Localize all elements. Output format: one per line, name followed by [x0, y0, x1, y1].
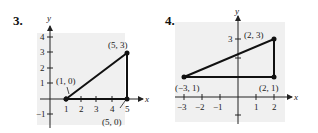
point-label: (1, 0) [56, 76, 76, 86]
svg-text:2: 2 [40, 63, 45, 73]
graph-3-y-label: y [46, 13, 51, 23]
graph-3: x y 1 2 3 4 5 4 3 2 1 −1 (1, 0) (5, 3) [36, 13, 149, 128]
svg-text:4: 4 [40, 32, 45, 42]
svg-text:4: 4 [110, 104, 115, 114]
svg-text:1: 1 [40, 78, 45, 88]
svg-text:1: 1 [64, 104, 69, 114]
svg-text:1: 1 [254, 102, 259, 112]
svg-text:−3: −3 [177, 102, 187, 112]
svg-text:2: 2 [272, 102, 277, 112]
svg-text:(2, 1): (2, 1) [259, 83, 279, 93]
svg-text:−1: −1 [36, 109, 46, 119]
svg-text:(2, 3): (2, 3) [244, 30, 264, 40]
graph-4: x y −3 −2 −1 1 2 3 (−3, 1) (2, 3) (2, 1) [175, 6, 298, 124]
point-label: (5, 0) [102, 117, 122, 127]
svg-text:2: 2 [79, 104, 84, 114]
svg-text:3: 3 [40, 47, 45, 57]
svg-text:3: 3 [94, 104, 99, 114]
svg-text:3: 3 [228, 34, 233, 44]
graph-3-x-label: x [144, 94, 149, 104]
svg-text:−2: −2 [195, 102, 205, 112]
svg-text:y: y [234, 6, 239, 16]
point-label: (5, 3) [108, 40, 128, 50]
svg-text:(−3, 1): (−3, 1) [175, 83, 200, 93]
svg-text:5: 5 [125, 104, 130, 114]
svg-text:x: x [293, 92, 298, 102]
svg-text:−1: −1 [213, 102, 223, 112]
figures: x y 1 2 3 4 5 4 3 2 1 −1 (1, 0) (5, 3) [0, 0, 318, 133]
